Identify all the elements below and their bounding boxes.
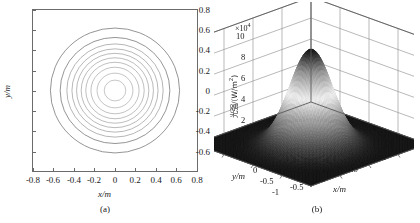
- x-tickmark: [53, 168, 54, 172]
- x-axis-label: x/m: [333, 185, 346, 194]
- x-tick-label: 0.5: [347, 165, 358, 174]
- y-axis-label: y/m: [232, 172, 245, 181]
- z-axis-label: 光强/(W/m2): [229, 75, 238, 118]
- y-tick-label: 0.8: [182, 6, 210, 15]
- y-tick-label: 1: [234, 143, 238, 152]
- x-tick-label: -0.5: [290, 183, 303, 192]
- z-tick-label: 2: [241, 116, 245, 125]
- y-tickmark: [32, 71, 36, 72]
- x-tick-label: 0.2: [124, 176, 146, 185]
- x-tick-label: 0: [106, 176, 124, 185]
- panel-a-caption: (a): [86, 205, 124, 214]
- x-tickmark: [74, 168, 75, 172]
- x-tick-label: -0.2: [82, 176, 106, 185]
- x-tickmark: [176, 168, 177, 172]
- contour-plot-area: [32, 9, 198, 172]
- panel-b-caption: (b): [298, 205, 336, 214]
- y-tickmark: [32, 131, 36, 132]
- x-tick-label: 0.6: [165, 176, 187, 185]
- y-tickmark: [32, 152, 36, 153]
- y-tick-label: -0.2: [182, 107, 210, 116]
- z-tick-label: 10: [236, 32, 245, 41]
- y-tick-label: 0.4: [182, 46, 210, 55]
- contour-rings-group: [33, 10, 197, 171]
- x-tickmark: [135, 168, 136, 172]
- y-tick-label: -0.6: [182, 148, 210, 157]
- figure-two-panel: 0.8 0.6 0.4 0.2 0 -0.2 -0.4 -0.6 -0.8 -0…: [0, 0, 420, 223]
- contour-ring: [50, 28, 179, 153]
- x-tick-label: 1: [382, 153, 386, 162]
- x-tick-label: 0.4: [145, 176, 167, 185]
- y-tickmark: [32, 111, 36, 112]
- panel-a-contour-plot: 0.8 0.6 0.4 0.2 0 -0.2 -0.4 -0.6 -0.8 -0…: [0, 0, 210, 223]
- y-tickmark: [32, 50, 36, 51]
- y-tickmark: [32, 30, 36, 31]
- y-tick-label: -0.4: [182, 127, 210, 136]
- contour-ring: [104, 80, 126, 101]
- y-tick-label: 0.2: [182, 67, 210, 76]
- y-tickmark: [32, 91, 36, 92]
- z-tick-label: 6: [241, 74, 245, 83]
- z-tick-label: 4: [241, 95, 245, 104]
- x-axis-label: x/m: [98, 190, 111, 199]
- y-axis-label: y/m: [3, 85, 12, 98]
- z-tick-label: 8: [241, 53, 245, 62]
- y-tick-label: 0.5: [242, 154, 253, 163]
- contour-ring: [77, 53, 154, 127]
- contour-ring: [86, 62, 144, 119]
- z-tick-label: 0: [241, 137, 245, 146]
- contour-ring: [72, 49, 158, 132]
- y-tick-label: -0.5: [260, 177, 273, 186]
- x-tick-label: 0: [321, 175, 325, 184]
- contour-ring: [91, 67, 139, 114]
- x-tickmark: [33, 168, 34, 172]
- x-tickmark: [94, 168, 95, 172]
- contour-ring: [81, 58, 149, 123]
- panel-b-surface-plot: ×104 光强/(W/m2) 10 8 6 4 2 0 1 0.5 0 -0.5…: [210, 0, 420, 223]
- x-tick-label: 0.8: [186, 176, 208, 185]
- y-tick-label: -1: [272, 188, 279, 197]
- contour-ring: [97, 73, 133, 108]
- y-tick-label: 0: [182, 87, 210, 96]
- y-tick-label: 0.6: [182, 26, 210, 35]
- y-tickmark: [32, 10, 36, 11]
- x-tickmark: [197, 168, 198, 172]
- x-tickmark: [115, 168, 116, 172]
- y-tick-label: 0: [253, 166, 257, 175]
- x-tickmark: [156, 168, 157, 172]
